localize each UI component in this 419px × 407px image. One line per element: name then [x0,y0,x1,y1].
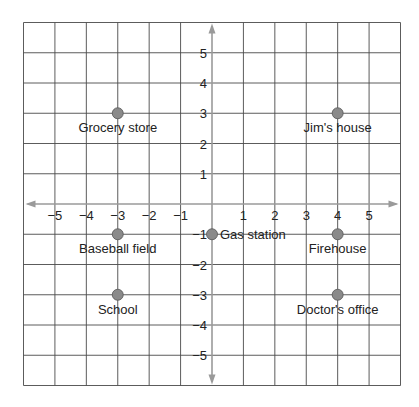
point-label: Baseball field [79,241,156,256]
x-axis-left-arrow-icon [26,201,36,208]
x-tick-label: −1 [173,208,188,223]
x-tick-label: 2 [271,208,278,223]
x-tick-label: 3 [303,208,310,223]
point-firehouse: Firehouse [309,229,367,257]
x-tick-label: 4 [334,208,341,223]
point-school: School [98,289,138,317]
point-label: Doctor's office [297,302,379,317]
y-tick-label: −1 [192,227,207,242]
y-tick-label: 5 [200,46,207,61]
x-axis-right-arrow-icon [389,201,399,208]
y-tick-label: 2 [200,137,207,152]
y-tick-label: 4 [200,76,207,91]
point-marker [332,289,343,300]
point-marker [112,229,123,240]
point-marker [112,108,123,119]
point-baseball-field: Baseball field [79,229,156,257]
point-doctor-s-office: Doctor's office [297,289,379,317]
point-label: Jim's house [304,120,372,135]
point-marker [207,229,218,240]
point-grocery-store: Grocery store [78,108,157,136]
point-jim-s-house: Jim's house [304,108,372,136]
y-tick-label: −4 [192,318,207,333]
x-tick-label: 5 [365,208,372,223]
y-tick-label: 3 [200,106,207,121]
coordinate-plane: −5−4−3−2−11234554321−1−2−3−4−5 Grocery s… [0,0,419,407]
y-tick-label: 1 [200,167,207,182]
x-tick-label: −4 [79,208,94,223]
point-label: Firehouse [309,241,367,256]
point-marker [112,289,123,300]
axes [26,24,399,385]
x-tick-label: −3 [110,208,125,223]
point-gas-station: Gas station [207,227,286,242]
point-label: Gas station [220,227,286,242]
y-axis-up-arrow-icon [209,24,216,34]
y-tick-label: −2 [192,258,207,273]
point-marker [332,108,343,119]
x-tick-label: −5 [48,208,63,223]
point-label: School [98,302,138,317]
y-tick-label: −5 [192,348,207,363]
point-marker [332,229,343,240]
x-tick-label: 1 [240,208,247,223]
point-label: Grocery store [78,120,157,135]
x-tick-label: −2 [142,208,157,223]
y-tick-label: −3 [192,288,207,303]
y-axis-down-arrow-icon [209,375,216,385]
